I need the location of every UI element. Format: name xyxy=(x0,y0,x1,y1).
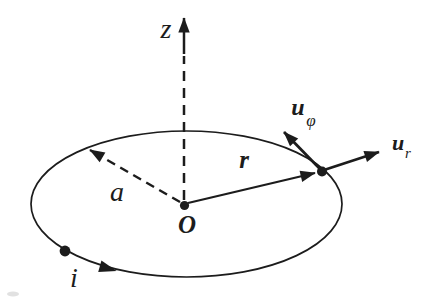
radius-a-label: a xyxy=(110,176,124,207)
unit-vector-r-label-subscript: r xyxy=(405,145,411,161)
unit-vector-r-arrow xyxy=(324,152,379,170)
position-vector-r-arrow xyxy=(188,173,315,203)
loop-point-dot xyxy=(317,167,327,177)
current-element-dot xyxy=(60,246,71,257)
current-label: i xyxy=(70,262,78,293)
unit-vector-phi-label-subscript: φ xyxy=(306,111,315,130)
radius-a-arrow xyxy=(90,150,102,157)
current-loop-figure: z O a r i u φ u r xyxy=(0,0,428,306)
unit-vector-r-label-base: u xyxy=(392,130,404,155)
scan-artifact xyxy=(7,291,19,296)
unit-vector-phi-label-base: u xyxy=(291,94,304,120)
origin-dot xyxy=(180,201,189,210)
position-vector-r-label: r xyxy=(239,146,249,173)
z-axis-label: z xyxy=(160,13,172,44)
origin-label: O xyxy=(178,211,196,238)
figure-canvas: z O a r i u φ u r xyxy=(0,0,428,306)
unit-vector-phi-arrow xyxy=(284,132,321,170)
